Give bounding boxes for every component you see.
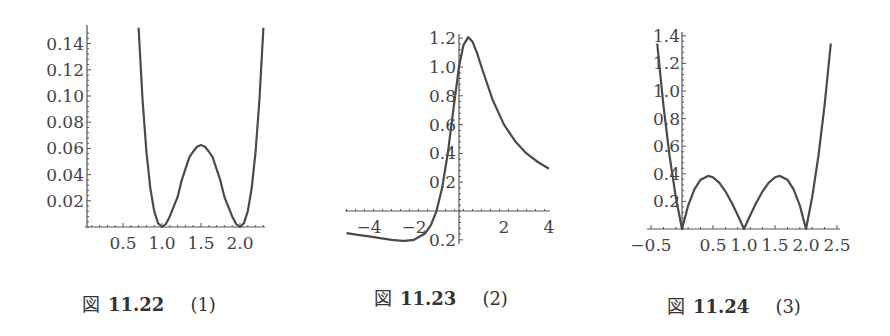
x-tick-label: 2.5 (823, 235, 850, 255)
x-tick-label: 2.0 (792, 235, 819, 255)
y-tick-label: 1.4 (653, 26, 680, 46)
figure-label: (3) (775, 296, 801, 317)
chart-3: −0.50.51.01.52.02.50.20.40.60.81.01.21.4 (630, 26, 850, 255)
figure-glyph: 図 (82, 294, 100, 315)
y-tick-label: 0.14 (46, 34, 84, 54)
y-tick-label: 0.04 (46, 165, 84, 185)
y-tick-label: 1.0 (653, 81, 680, 101)
x-tick-label: 2.0 (226, 233, 253, 253)
chart-1: 0.51.01.52.00.020.040.060.080.100.120.14 (46, 25, 265, 253)
figure-number: 11.22 (108, 294, 164, 315)
x-tick-label: 1.5 (187, 233, 214, 253)
y-tick-label: 0.8 (429, 86, 456, 106)
y-tick-label: 1.0 (429, 57, 456, 77)
y-tick-label: 0.4 (429, 143, 456, 163)
figure-glyph: 図 (667, 296, 685, 317)
x-tick-label: 0.5 (109, 233, 136, 253)
y-tick-label: 0.06 (46, 138, 84, 158)
y-tick-label: 0.2 (429, 230, 456, 250)
figure-label: (2) (482, 288, 508, 309)
y-tick-label: 0.08 (46, 112, 84, 132)
x-tick-label: 2 (499, 217, 510, 237)
x-tick-label: −0.5 (630, 235, 671, 255)
x-tick-label: −4 (356, 217, 381, 237)
x-tick-label: 1.5 (761, 235, 788, 255)
figure-caption-2: 図11.23(2) (374, 284, 508, 310)
figure-number: 11.23 (400, 288, 456, 309)
x-tick-label: 4 (544, 217, 555, 237)
y-tick-label: 1.2 (653, 53, 680, 73)
y-tick-label: 0.02 (46, 191, 84, 211)
figure-label: (1) (190, 294, 216, 315)
x-tick-label: 0.5 (699, 235, 726, 255)
y-tick-label: 0.12 (46, 60, 84, 80)
figure-glyph: 図 (374, 288, 392, 309)
figure-caption-3: 図11.24(3) (667, 292, 801, 318)
curve-f1 (139, 28, 264, 227)
y-tick-label: 1.2 (429, 28, 456, 48)
y-tick-label: 0.4 (653, 164, 680, 184)
figure-number: 11.24 (693, 296, 749, 317)
figure-caption-1: 図11.22(1) (82, 290, 216, 316)
x-tick-label: 1.0 (148, 233, 175, 253)
y-tick-label: 0.10 (46, 86, 84, 106)
x-tick-label: 1.0 (730, 235, 757, 255)
chart-2: −4−2240.20.20.40.60.81.01.2 (345, 28, 554, 250)
